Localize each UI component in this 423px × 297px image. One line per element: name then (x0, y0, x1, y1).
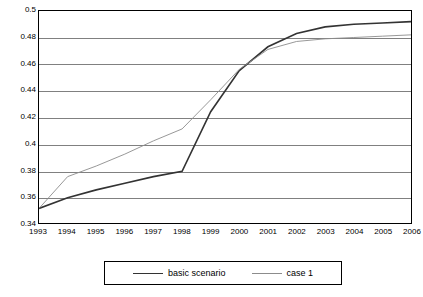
x-tick-label: 1995 (87, 227, 105, 236)
x-tick-label: 1993 (29, 227, 47, 236)
y-tick-label: 0.38 (2, 167, 36, 175)
x-tick-label: 1999 (202, 227, 220, 236)
legend-item-case-1: case 1 (252, 268, 314, 278)
plot-area (38, 10, 412, 224)
x-tick-label: 2005 (374, 227, 392, 236)
x-tick-label: 2006 (403, 227, 421, 236)
legend-label-basic-scenario: basic scenario (168, 268, 226, 278)
y-tick-label: 0.44 (2, 86, 36, 94)
y-axis-tick-labels: 0.340.360.380.40.420.440.460.480.5 (0, 0, 36, 234)
chart-legend: basic scenario case 1 (104, 261, 342, 285)
legend-swatch-basic-scenario (133, 273, 163, 274)
x-tick-label: 1998 (173, 227, 191, 236)
line-chart: 0.340.360.380.40.420.440.460.480.5 19931… (0, 0, 423, 297)
legend-item-basic-scenario: basic scenario (133, 268, 226, 278)
x-tick-label: 1994 (58, 227, 76, 236)
x-tick-label: 1996 (115, 227, 133, 236)
x-tick-label: 1997 (144, 227, 162, 236)
x-tick-label: 2001 (259, 227, 277, 236)
series-line (39, 35, 411, 209)
legend-label-case-1: case 1 (287, 268, 314, 278)
y-tick-label: 0.4 (2, 140, 36, 148)
y-tick-label: 0.48 (2, 33, 36, 41)
y-tick-label: 0.36 (2, 193, 36, 201)
legend-swatch-case-1 (252, 273, 282, 274)
y-tick-label: 0.46 (2, 60, 36, 68)
y-tick-label: 0.5 (2, 6, 36, 14)
series-line (39, 22, 411, 209)
x-tick-label: 2002 (288, 227, 306, 236)
x-tick-label: 2003 (317, 227, 335, 236)
series-layer (39, 11, 411, 223)
x-tick-label: 2000 (230, 227, 248, 236)
y-tick-label: 0.42 (2, 113, 36, 121)
x-axis-tick-labels: 1993199419951996199719981999200020012002… (38, 227, 412, 241)
x-tick-label: 2004 (346, 227, 364, 236)
